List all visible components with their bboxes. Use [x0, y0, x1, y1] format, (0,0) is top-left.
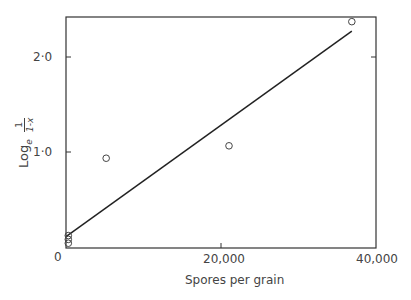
plot-frame [66, 17, 376, 248]
y-label-fraction: 1 1-x [14, 118, 35, 132]
y-tick-label-2: 2·0 [33, 50, 52, 64]
x-tick-label-40000: 40,000 [356, 252, 398, 266]
y-label-base: e [24, 139, 34, 145]
data-point [349, 18, 356, 25]
x-axis-label: Spores per grain [185, 273, 284, 287]
y-tick-label-1: 1·0 [33, 145, 52, 159]
fit-line [66, 31, 352, 236]
y-tick-label-0: 0 [54, 250, 62, 264]
y-label-denominator: 1-x [25, 118, 35, 132]
data-point [103, 155, 110, 162]
y-label-numerator: 1 [14, 118, 25, 132]
x-tick-label-20000: 20,000 [203, 252, 245, 266]
y-axis-label: Loge 1 1-x [14, 118, 35, 168]
y-label-log: Log [16, 145, 31, 168]
data-point [226, 143, 233, 150]
